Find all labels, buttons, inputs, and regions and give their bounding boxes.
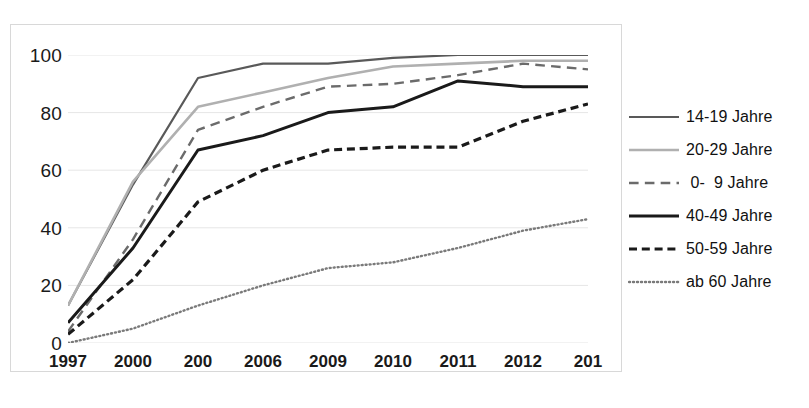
y-tick-label: 100 xyxy=(30,46,62,65)
y-tick-label: 20 xyxy=(40,276,62,295)
x-tick-label: 2010 xyxy=(374,352,412,372)
y-tick-label: 40 xyxy=(40,218,62,237)
legend-label: 20-29 Jahre xyxy=(686,141,773,159)
x-tick-label: 2009 xyxy=(309,352,347,372)
series-line xyxy=(68,64,588,332)
legend-swatch xyxy=(628,177,680,189)
x-tick-label: 2012 xyxy=(504,352,542,372)
plot-area xyxy=(68,55,588,343)
legend-swatch xyxy=(628,111,680,123)
legend-swatch xyxy=(628,144,680,156)
legend-item[interactable]: ab 60 Jahre xyxy=(628,265,803,298)
chart-legend: 14-19 Jahre20-29 Jahre 0- 9 Jahre40-49 J… xyxy=(628,100,803,298)
series-line xyxy=(68,104,588,334)
y-axis: 020406080100 xyxy=(14,55,62,343)
legend-label: 0- 9 Jahre xyxy=(686,174,768,192)
legend-swatch xyxy=(628,243,680,255)
legend-item[interactable]: 50-59 Jahre xyxy=(628,232,803,265)
legend-label: ab 60 Jahre xyxy=(686,273,772,291)
legend-label: 40-49 Jahre xyxy=(686,207,773,225)
series-line xyxy=(68,61,588,306)
y-tick-label: 0 xyxy=(51,334,62,353)
x-tick-label: 1997 xyxy=(49,352,87,372)
x-tick-label: 2006 xyxy=(244,352,282,372)
y-tick-label: 80 xyxy=(40,103,62,122)
series-line xyxy=(68,81,588,323)
legend-swatch xyxy=(628,210,680,222)
legend-label: 14-19 Jahre xyxy=(686,108,773,126)
legend-label: 50-59 Jahre xyxy=(686,240,773,258)
x-tick-label: 200 xyxy=(184,352,212,372)
legend-item[interactable]: 40-49 Jahre xyxy=(628,199,803,232)
x-tick-label: 2000 xyxy=(114,352,152,372)
legend-swatch xyxy=(628,276,680,288)
x-tick-label: 2011 xyxy=(440,352,477,372)
series-line xyxy=(68,55,588,306)
chart-root: 020406080100 199720002002006200920102011… xyxy=(0,0,809,408)
y-tick-label: 60 xyxy=(40,161,62,180)
legend-item[interactable]: 14-19 Jahre xyxy=(628,100,803,133)
legend-item[interactable]: 20-29 Jahre xyxy=(628,133,803,166)
x-tick-label: 201 xyxy=(574,352,602,372)
series-canvas xyxy=(68,55,588,343)
legend-item[interactable]: 0- 9 Jahre xyxy=(628,166,803,199)
x-axis: 1997200020020062009201020112012201 xyxy=(68,352,588,382)
series-line xyxy=(68,219,588,343)
